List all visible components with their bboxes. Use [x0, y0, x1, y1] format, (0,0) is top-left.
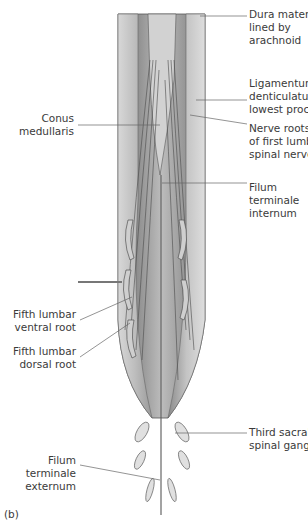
label-conus-medullaris: Conus medullaris — [10, 112, 74, 138]
label-fifth-lumbar-ventral-root: Fifth lumbar ventral root — [4, 308, 76, 334]
label-third-sacral-ganglion: Third sacral spinal ganglion — [249, 426, 308, 452]
label-filum-terminale-internum: Filum terminale internum — [249, 181, 299, 220]
label-fifth-lumbar-dorsal-root: Fifth lumbar dorsal root — [4, 345, 76, 371]
label-filum-terminale-externum: Filum terminale externum — [4, 454, 76, 493]
label-dura-mater: Dura mater, lined by arachnoid — [249, 8, 308, 47]
label-first-lumbar-nerve-roots: Nerve roots of first lumbar spinal nerve — [249, 122, 308, 161]
label-ligamentum-denticulatum: Ligamentum denticulatum, lowest process — [249, 77, 308, 116]
panel-label: (b) — [4, 508, 19, 520]
